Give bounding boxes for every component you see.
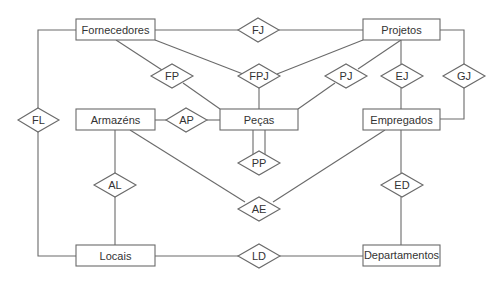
relationship-fj[interactable]: FJ <box>238 18 279 42</box>
entity-empregados[interactable]: Empregados <box>363 109 440 130</box>
edge-projetos-gj <box>440 30 464 64</box>
relationship-ae[interactable]: AE <box>238 197 280 221</box>
entity-locais[interactable]: Locais <box>76 245 155 266</box>
relationship-fpj[interactable]: FPJ <box>238 64 280 88</box>
edge-fl-locais <box>38 132 76 256</box>
relationship-label: AE <box>252 203 267 215</box>
relationship-fl[interactable]: FL <box>18 108 59 132</box>
entity-label: Departamentos <box>364 249 440 261</box>
relationship-ld[interactable]: LD <box>238 244 280 268</box>
relationship-ap[interactable]: AP <box>166 108 207 132</box>
er-diagram: Fornecedores Projetos Armazéns Peças Emp… <box>0 0 500 281</box>
relationship-label: PJ <box>340 70 353 82</box>
edge-projetos-pj <box>358 40 401 69</box>
relationship-label: AP <box>179 114 194 126</box>
entity-label: Projetos <box>381 24 422 36</box>
edge-pj-pecas <box>298 83 335 109</box>
relationship-label: FPJ <box>249 70 269 82</box>
relationship-label: AL <box>108 179 121 191</box>
relationship-label: FP <box>165 70 179 82</box>
entity-projetos[interactable]: Projetos <box>363 19 440 40</box>
edge-fp-pecas <box>183 83 220 109</box>
entity-pecas[interactable]: Peças <box>220 109 298 130</box>
relationship-label: ED <box>394 179 409 191</box>
relationship-label: LD <box>252 250 266 262</box>
relationship-label: FJ <box>252 24 264 36</box>
edges <box>38 30 464 256</box>
relationship-fp[interactable]: FP <box>151 64 193 88</box>
relationship-ed[interactable]: ED <box>381 173 423 197</box>
entity-label: Locais <box>100 250 132 262</box>
entity-label: Armazéns <box>91 114 141 126</box>
edge-ae-empregados <box>273 130 385 202</box>
relationship-pp[interactable]: PP <box>238 151 280 175</box>
edge-gj-empregados <box>440 88 464 119</box>
relationship-ej[interactable]: EJ <box>381 64 423 88</box>
entity-label: Fornecedores <box>82 24 150 36</box>
entity-armazens[interactable]: Armazéns <box>76 109 155 130</box>
edge-fornecedores-fp <box>116 40 162 70</box>
entity-label: Empregados <box>370 114 433 126</box>
relationship-label: PP <box>252 157 267 169</box>
relationship-label: EJ <box>396 70 409 82</box>
entity-label: Peças <box>244 114 275 126</box>
relationship-label: FL <box>32 114 45 126</box>
edge-fornecedores-fl <box>38 30 76 108</box>
relationship-gj[interactable]: GJ <box>443 64 485 88</box>
edge-armazens-ae <box>130 130 245 202</box>
relationship-al[interactable]: AL <box>94 173 136 197</box>
entity-departamentos[interactable]: Departamentos <box>363 245 440 266</box>
relationship-label: GJ <box>457 70 471 82</box>
entity-fornecedores[interactable]: Fornecedores <box>76 19 155 40</box>
